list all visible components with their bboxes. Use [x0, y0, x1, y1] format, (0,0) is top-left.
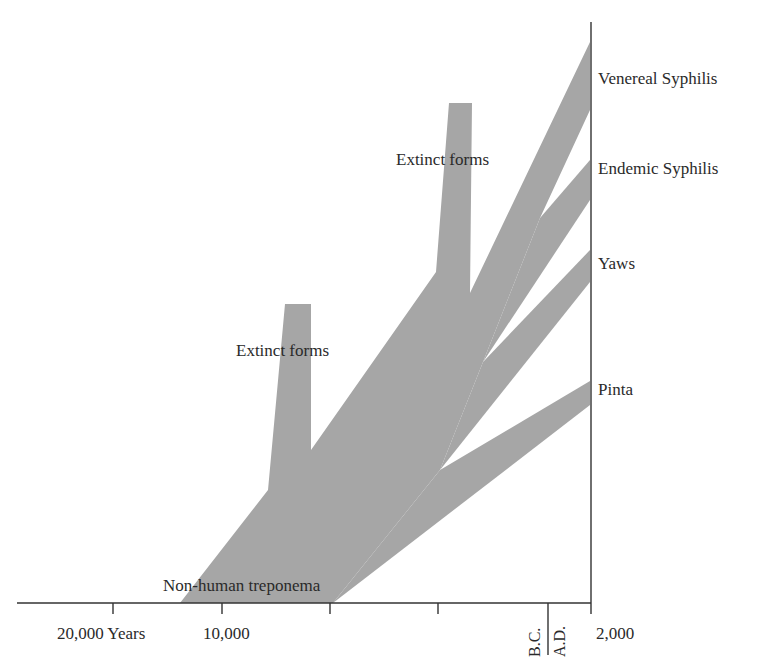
label-extinct-forms-upper: Extinct forms	[396, 151, 489, 168]
label-venereal-syphilis: Venereal Syphilis	[598, 70, 717, 87]
label-endemic-syphilis: Endemic Syphilis	[598, 160, 718, 177]
era-label-ad: A.D.	[552, 626, 568, 657]
treponema-evolution-diagram	[0, 0, 774, 667]
evolution-bands	[180, 42, 590, 603]
tick-label-2000: 2,000	[596, 625, 634, 642]
label-extinct-forms-lower: Extinct forms	[236, 342, 329, 359]
tick-label-20000-years: 20,000 Years	[57, 625, 145, 642]
tick-label-10000: 10,000	[203, 625, 250, 642]
era-label-bc: B.C.	[527, 628, 543, 657]
label-yaws: Yaws	[598, 255, 635, 272]
label-pinta: Pinta	[598, 381, 633, 398]
label-non-human-treponema: Non-human treponema	[163, 577, 320, 594]
